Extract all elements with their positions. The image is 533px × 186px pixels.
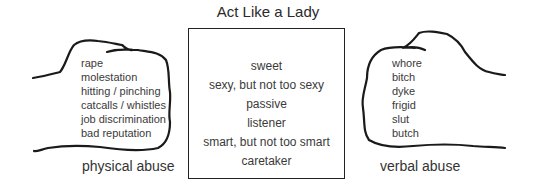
physical-abuse-item: rape bbox=[81, 56, 166, 70]
physical-abuse-item: catcalls / whistles bbox=[81, 98, 166, 112]
physical-abuse-item: job discrimination bbox=[81, 112, 166, 126]
box-item: sweet bbox=[189, 57, 344, 76]
box-items-list: sweet sexy, but not too sexy passive lis… bbox=[189, 57, 344, 171]
act-like-a-lady-box: sweet sexy, but not too sexy passive lis… bbox=[188, 28, 345, 179]
box-item: smart, but not too smart bbox=[189, 133, 344, 152]
verbal-abuse-item: frigid bbox=[392, 98, 422, 112]
verbal-abuse-item: butch bbox=[392, 126, 422, 140]
verbal-abuse-list: whore bitch dyke frigid slut butch bbox=[392, 56, 422, 140]
diagram-title: Act Like a Lady bbox=[188, 3, 348, 20]
box-item: caretaker bbox=[189, 152, 344, 171]
box-item: sexy, but not too sexy bbox=[189, 76, 344, 95]
physical-abuse-caption: physical abuse bbox=[82, 158, 175, 174]
physical-abuse-item: bad reputation bbox=[81, 126, 166, 140]
verbal-abuse-item: bitch bbox=[392, 70, 422, 84]
physical-abuse-item: hitting / pinching bbox=[81, 84, 166, 98]
box-item: listener bbox=[189, 114, 344, 133]
box-item: passive bbox=[189, 95, 344, 114]
physical-abuse-item: molestation bbox=[81, 70, 166, 84]
verbal-abuse-item: slut bbox=[392, 112, 422, 126]
physical-abuse-list: rape molestation hitting / pinching catc… bbox=[81, 56, 166, 140]
verbal-abuse-item: whore bbox=[392, 56, 422, 70]
verbal-abuse-item: dyke bbox=[392, 84, 422, 98]
verbal-abuse-caption: verbal abuse bbox=[380, 158, 460, 174]
